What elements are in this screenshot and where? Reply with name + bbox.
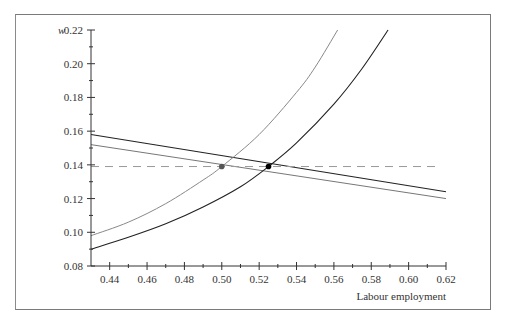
x-tick-label: 0.50 bbox=[212, 273, 232, 285]
x-tick-label: 0.62 bbox=[436, 273, 455, 285]
equilibrium-point bbox=[219, 164, 225, 170]
y-tick-label: 0.14 bbox=[64, 159, 84, 171]
y-tick-label: 0.20 bbox=[64, 58, 84, 70]
series-line bbox=[91, 135, 446, 192]
x-tick-label: 0.56 bbox=[324, 273, 344, 285]
x-axis-label: Labour employment bbox=[356, 290, 446, 302]
y-tick-label: 0.08 bbox=[64, 260, 84, 272]
x-tick-label: 0.48 bbox=[175, 273, 195, 285]
x-tick-label: 0.58 bbox=[362, 273, 382, 285]
x-tick-label: 0.54 bbox=[287, 273, 307, 285]
y-tick-label: 0.18 bbox=[64, 91, 84, 103]
x-tick-label: 0.46 bbox=[137, 273, 157, 285]
chart-curves bbox=[91, 30, 446, 249]
chart-axes: 0.440.460.480.500.520.540.560.580.600.62… bbox=[64, 24, 456, 285]
y-axis-label: w bbox=[58, 24, 66, 36]
y-tick-label: 0.16 bbox=[64, 125, 84, 137]
y-tick-label: 0.22 bbox=[64, 24, 83, 36]
y-tick-label: 0.10 bbox=[64, 226, 84, 238]
series-line bbox=[91, 145, 446, 199]
series-line bbox=[91, 30, 338, 236]
y-tick-label: 0.12 bbox=[64, 193, 83, 205]
x-tick-label: 0.44 bbox=[100, 273, 120, 285]
series-line bbox=[91, 30, 388, 249]
equilibrium-point bbox=[266, 164, 272, 170]
x-tick-label: 0.60 bbox=[399, 273, 419, 285]
chart-plot: 0.440.460.480.500.520.540.560.580.600.62… bbox=[0, 0, 506, 325]
x-tick-label: 0.52 bbox=[250, 273, 269, 285]
